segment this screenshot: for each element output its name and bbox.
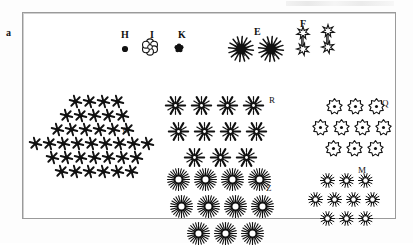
six-point-asterisk-icon bbox=[126, 137, 140, 150]
six-point-asterisk-icon bbox=[112, 137, 126, 150]
six-point-asterisk-icon bbox=[83, 95, 97, 108]
six-point-asterisk-icon bbox=[69, 95, 83, 108]
snowflake-icon bbox=[163, 95, 189, 116]
cluster-row bbox=[32, 122, 155, 136]
solid-starburst-icon bbox=[228, 36, 254, 62]
small-sun-burst-icon bbox=[318, 173, 337, 188]
outline-blob-flower-icon bbox=[310, 119, 331, 136]
sun-burst-icon bbox=[249, 195, 276, 218]
solid-dot-icon bbox=[118, 42, 132, 56]
outline-blob-flower-icon bbox=[373, 119, 394, 136]
six-point-asterisk-icon bbox=[96, 165, 110, 178]
snowflake-icon bbox=[165, 121, 191, 142]
outline-blob-flower-icon bbox=[331, 119, 352, 136]
small-sun-burst-icon bbox=[344, 192, 363, 207]
six-point-asterisk-icon bbox=[82, 165, 96, 178]
sun-burst-icon bbox=[195, 195, 222, 218]
six-point-asterisk-icon bbox=[111, 95, 125, 108]
snowflake-icon bbox=[181, 147, 207, 168]
cluster-row bbox=[39, 94, 154, 108]
sun-burst-icon bbox=[212, 222, 239, 245]
six-point-asterisk-icon bbox=[28, 137, 42, 150]
scan-artifact bbox=[286, 1, 394, 6]
six-point-asterisk-icon bbox=[60, 109, 74, 122]
sun-burst-icon bbox=[192, 168, 219, 191]
small-sun-burst-icon bbox=[356, 173, 375, 188]
small-sun-burst-icon bbox=[337, 211, 356, 226]
outline-blob-flower-icon bbox=[352, 119, 373, 136]
six-point-asterisk-icon bbox=[124, 165, 138, 178]
sun-burst-icon bbox=[222, 195, 249, 218]
snowflake-icon bbox=[243, 121, 269, 142]
six-point-asterisk-icon bbox=[129, 151, 143, 164]
six-point-asterisk-icon bbox=[88, 109, 102, 122]
sun-burst-icon bbox=[219, 168, 246, 191]
snowflake-icon bbox=[215, 95, 241, 116]
six-point-asterisk-icon bbox=[56, 137, 70, 150]
cluster-row bbox=[306, 190, 382, 209]
outline-flower-icon bbox=[141, 38, 159, 56]
six-point-asterisk-icon bbox=[97, 95, 111, 108]
sun-burst-icon bbox=[239, 222, 266, 245]
six-point-asterisk-icon bbox=[140, 137, 154, 150]
outline-spiky-star-icon bbox=[313, 24, 343, 54]
six-point-asterisk-icon bbox=[51, 123, 65, 136]
cluster-row bbox=[165, 118, 269, 144]
outline-blob-flower-icon bbox=[344, 140, 365, 157]
cluster-row bbox=[34, 150, 154, 164]
snowflake-icon bbox=[233, 147, 259, 168]
cluster-row bbox=[39, 164, 155, 178]
cluster-row bbox=[162, 166, 276, 193]
cluster-o bbox=[28, 94, 154, 178]
panel-letter: a bbox=[6, 28, 11, 38]
cluster-r bbox=[160, 92, 269, 170]
six-point-asterisk-icon bbox=[98, 137, 112, 150]
six-point-asterisk-icon bbox=[42, 137, 56, 150]
cluster-row bbox=[168, 193, 276, 220]
snowflake-icon bbox=[191, 121, 217, 142]
small-sun-burst-icon bbox=[363, 192, 382, 207]
cluster-row bbox=[175, 220, 276, 247]
outline-blob-flower-icon bbox=[365, 140, 386, 157]
six-point-asterisk-icon bbox=[107, 123, 121, 136]
cluster-row bbox=[310, 117, 394, 138]
sun-burst-icon bbox=[168, 195, 195, 218]
snowflake-icon bbox=[189, 95, 215, 116]
cluster-row bbox=[160, 92, 269, 118]
outline-blob-flower-icon bbox=[345, 98, 366, 115]
cluster-row bbox=[36, 108, 154, 122]
snowflake-icon bbox=[241, 95, 267, 116]
small-sun-burst-icon bbox=[337, 173, 356, 188]
snowflake-icon bbox=[217, 121, 243, 142]
small-sun-burst-icon bbox=[318, 211, 337, 226]
sun-burst-icon bbox=[165, 168, 192, 191]
six-point-asterisk-icon bbox=[54, 165, 68, 178]
cluster-label-q: Q bbox=[382, 99, 389, 108]
sun-burst-icon bbox=[185, 222, 212, 245]
six-point-asterisk-icon bbox=[59, 151, 73, 164]
cluster-row bbox=[315, 138, 394, 159]
six-point-asterisk-icon bbox=[84, 137, 98, 150]
six-point-asterisk-icon bbox=[74, 109, 88, 122]
legend-label-k: K bbox=[178, 30, 186, 40]
outline-blob-flower-icon bbox=[323, 140, 344, 157]
solid-starburst-icon bbox=[258, 36, 284, 62]
six-point-asterisk-icon bbox=[93, 123, 107, 136]
cluster-label-o: O bbox=[123, 126, 130, 135]
snowflake-icon bbox=[207, 147, 233, 168]
six-point-asterisk-icon bbox=[70, 137, 84, 150]
six-point-asterisk-icon bbox=[101, 151, 115, 164]
solid-clover-icon bbox=[172, 41, 186, 55]
cluster-label-m: M bbox=[358, 166, 366, 175]
cluster-label-z: Z bbox=[266, 184, 272, 193]
cluster-label-r: R bbox=[269, 96, 275, 105]
six-point-asterisk-icon bbox=[102, 109, 116, 122]
six-point-asterisk-icon bbox=[68, 165, 82, 178]
six-point-asterisk-icon bbox=[65, 123, 79, 136]
legend-label-h: H bbox=[121, 30, 129, 40]
six-point-asterisk-icon bbox=[87, 151, 101, 164]
small-sun-burst-icon bbox=[325, 192, 344, 207]
cluster-row bbox=[312, 171, 382, 190]
cluster-row bbox=[311, 209, 382, 228]
small-sun-burst-icon bbox=[356, 211, 375, 226]
